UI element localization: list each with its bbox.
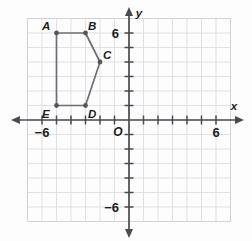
origin-label: O — [113, 125, 123, 139]
polygon-outline — [57, 33, 101, 106]
y-axis-arrow-up — [125, 7, 133, 16]
x-tick-label-pos6: 6 — [212, 125, 219, 140]
vertex-point-a — [54, 31, 59, 36]
vertex-label-e: E — [42, 108, 50, 120]
y-tick-label-neg6: −6 — [104, 200, 119, 215]
y-axis-arrow-down — [125, 229, 133, 238]
x-axis-arrow-left — [11, 116, 20, 124]
x-axis-arrow-right — [235, 116, 244, 124]
x-tick-label-neg6: −6 — [35, 125, 50, 140]
polygon-abcde — [54, 31, 102, 108]
vertex-label-d: D — [88, 108, 96, 120]
y-tick-label-pos6: 6 — [112, 26, 119, 41]
x-axis-name-label: x — [230, 100, 238, 112]
axis-text-labels: −6 6 6 −6 O x y — [35, 7, 238, 215]
vertex-label-a: A — [41, 20, 50, 32]
vertex-point-e — [54, 103, 59, 108]
vertex-label-c: C — [103, 49, 112, 61]
y-axis-name-label: y — [135, 7, 143, 19]
vertex-point-c — [98, 60, 103, 65]
vertex-label-b: B — [88, 20, 96, 32]
coordinate-plane-figure: A B C D E −6 6 6 −6 O x y — [0, 0, 252, 241]
coordinate-plane-svg: A B C D E −6 6 6 −6 O x y — [0, 0, 252, 241]
y-axis — [125, 7, 134, 238]
